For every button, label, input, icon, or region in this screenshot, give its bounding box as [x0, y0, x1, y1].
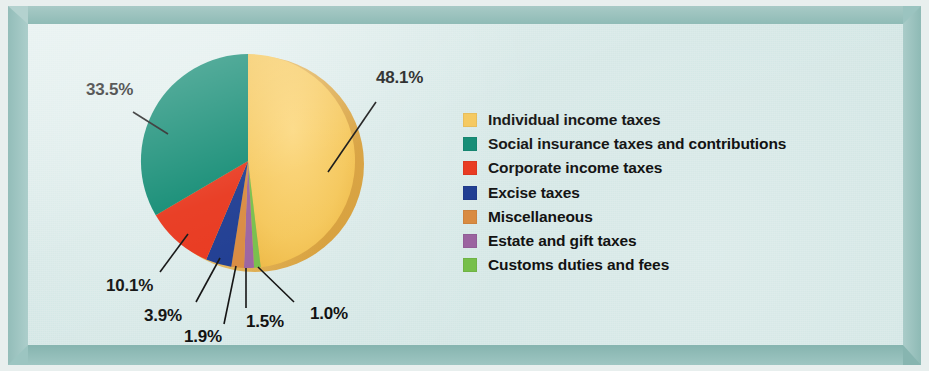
legend-swatch-corporate-income-taxes [463, 161, 477, 175]
legend-label-social-insurance: Social insurance taxes and contributions [488, 135, 786, 153]
pie-label-customs-duties-and-fees: 1.0% [310, 304, 348, 324]
chart-legend: Individual income taxes Social insurance… [463, 108, 786, 277]
legend-item-excise-taxes: Excise taxes [463, 181, 786, 205]
frame-corner-bottom-left [8, 345, 28, 365]
legend-label-corporate-income-taxes: Corporate income taxes [488, 159, 662, 177]
legend-swatch-customs-duties-and-fees [463, 258, 477, 272]
chart-screenshot: 48.1% 33.5% 10.1% 3.9% 1.9% 1.5% 1.0% In… [0, 0, 929, 371]
legend-swatch-miscellaneous [463, 210, 477, 224]
frame-corner-bottom-right [903, 345, 921, 365]
pie-label-miscellaneous: 1.9% [184, 327, 222, 345]
legend-swatch-individual-income-taxes [463, 113, 477, 127]
frame-bevel-top [8, 6, 921, 24]
legend-item-social-insurance: Social insurance taxes and contributions [463, 132, 786, 156]
legend-item-corporate-income-taxes: Corporate income taxes [463, 156, 786, 180]
leader-line-customs-duties-and-fees [258, 267, 294, 302]
legend-label-excise-taxes: Excise taxes [488, 184, 580, 202]
frame-bevel-bottom [8, 345, 921, 365]
legend-label-individual-income-taxes: Individual income taxes [488, 111, 661, 129]
legend-swatch-excise-taxes [463, 186, 477, 200]
chart-panel: 48.1% 33.5% 10.1% 3.9% 1.9% 1.5% 1.0% In… [28, 24, 903, 345]
frame-bevel-right [903, 6, 921, 365]
legend-item-estate-and-gift-taxes: Estate and gift taxes [463, 229, 786, 253]
pie-label-corporate-income-taxes: 10.1% [106, 276, 153, 296]
legend-label-estate-and-gift-taxes: Estate and gift taxes [488, 232, 637, 250]
pie-label-individual-income-taxes: 48.1% [376, 68, 423, 88]
pie-slices [141, 54, 355, 268]
frame-corner-top-right [903, 6, 921, 24]
pie-label-excise-taxes: 3.9% [144, 306, 182, 326]
frame-corner-top-left [8, 6, 28, 24]
legend-label-miscellaneous: Miscellaneous [488, 208, 593, 226]
legend-swatch-estate-and-gift-taxes [463, 234, 477, 248]
leader-line-excise-taxes [196, 258, 220, 302]
legend-item-miscellaneous: Miscellaneous [463, 205, 786, 229]
pie-label-estate-and-gift-taxes: 1.5% [246, 312, 284, 332]
legend-swatch-social-insurance [463, 137, 477, 151]
legend-item-individual-income-taxes: Individual income taxes [463, 108, 786, 132]
beveled-frame: 48.1% 33.5% 10.1% 3.9% 1.9% 1.5% 1.0% In… [8, 6, 921, 365]
legend-item-customs-duties-and-fees: Customs duties and fees [463, 253, 786, 277]
legend-label-customs-duties-and-fees: Customs duties and fees [488, 256, 669, 274]
leader-line-miscellaneous [224, 266, 236, 324]
pie-slice-individual-income-taxes [248, 54, 355, 267]
leader-line-corporate-income-taxes [160, 234, 188, 272]
frame-bevel-left [8, 6, 28, 365]
pie-label-social-insurance: 33.5% [86, 80, 133, 100]
